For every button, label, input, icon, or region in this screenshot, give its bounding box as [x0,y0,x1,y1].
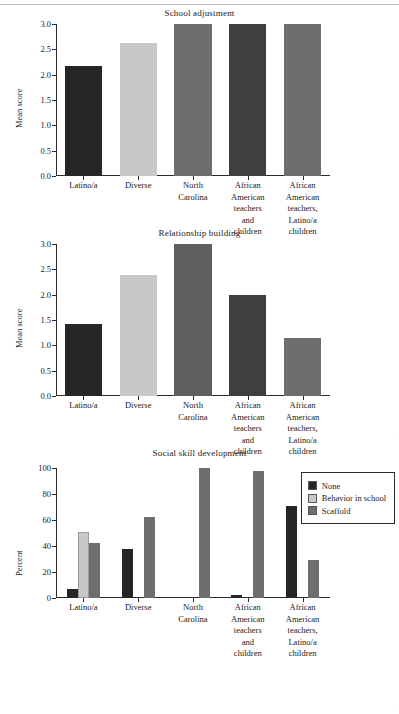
y-axis-label-mean-score: Mean score [14,309,24,348]
y-axis-line [56,244,57,396]
x-axis-category-label: Diverse [107,180,170,192]
x-axis-category-label: African American teachers, Latino/a chil… [271,602,334,660]
x-axis-category-label: African American teachers and children [216,602,279,660]
bar [284,338,321,396]
y-tick-mark [52,269,56,270]
y-tick-mark [52,24,56,25]
legend-label: Scaffold [322,506,351,516]
bar [174,24,211,176]
y-tick-mark [52,345,56,346]
x-axis-category-label: North Carolina [162,602,225,625]
legend-label: Behavior in school [322,493,386,503]
x-axis-category-label: Latino/a [52,400,115,412]
legend-swatch-icon [308,481,317,490]
y-tick-mark [52,396,56,397]
legend-swatch-icon [308,506,317,515]
y-axis-label-mean-score: Mean score [14,89,24,128]
y-tick-mark [52,100,56,101]
legend-item[interactable]: None [308,481,386,491]
y-tick-mark [52,598,56,599]
bar-none [122,549,133,598]
y-tick-mark [52,371,56,372]
x-axis-category-label: Diverse [107,602,170,614]
y-tick-mark [52,176,56,177]
bar-none [286,506,297,598]
chart-title-social-skill-development: Social skill development [0,448,399,458]
y-tick-mark [52,572,56,573]
x-axis-category-label: Latino/a [52,180,115,192]
bar-none [67,589,78,598]
bar [229,295,266,396]
x-axis-category-label: North Carolina [162,180,225,203]
bar-scaffold [89,543,100,598]
legend: NoneBehavior in schoolScaffold [301,472,395,524]
y-tick-mark [52,49,56,50]
plot-area-relationship-building: 0.00.51.01.52.02.53.0 [56,244,330,396]
x-axis-category-label: Latino/a [52,602,115,614]
y-tick-mark [52,546,56,547]
y-tick-mark [52,320,56,321]
y-axis-line [56,468,57,598]
chart-school-adjustment: School adjustment Mean score 0.00.51.01.… [0,8,399,226]
y-tick-mark [52,520,56,521]
y-tick-mark [52,468,56,469]
chart-social-skill-development: Social skill development Percent 0204060… [0,448,399,714]
chart-title-school-adjustment: School adjustment [0,8,399,18]
bar [65,66,102,176]
x-axis-category-label: North Carolina [162,400,225,423]
legend-item[interactable]: Behavior in school [308,493,386,503]
plot-area-social-skill-development: 020406080100 [56,468,330,598]
bar-none [231,595,242,598]
page-corner-mark-1: . [391,430,393,438]
y-tick-mark [52,244,56,245]
bar [120,275,157,396]
x-axis-category-label: Diverse [107,400,170,412]
bar [65,324,102,396]
y-tick-mark [52,151,56,152]
chart-relationship-building: Relationship building Mean score 0.00.51… [0,228,399,446]
bar-scaffold [144,517,155,598]
bar [284,24,321,176]
legend-item[interactable]: Scaffold [308,506,386,516]
y-axis-label-percent: Percent [14,551,24,577]
bar-scaffold [199,468,210,598]
bar-behavior-in-school [78,532,89,598]
legend-swatch-icon [308,494,317,503]
y-tick-mark [52,494,56,495]
plot-area-school-adjustment: 0.00.51.01.52.02.53.0 [56,24,330,176]
bar [229,24,266,176]
chart-title-relationship-building: Relationship building [0,228,399,238]
legend-label: None [322,481,340,491]
y-axis-line [56,24,57,176]
page-corner-mark-2: . [391,700,393,708]
y-tick-mark [52,295,56,296]
bar [120,43,157,176]
y-tick-mark [52,125,56,126]
bar [174,244,211,396]
bar-scaffold [253,471,264,598]
bar-scaffold [308,560,319,598]
y-tick-mark [52,75,56,76]
page-top-rule [0,4,399,5]
